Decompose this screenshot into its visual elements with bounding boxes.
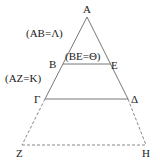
label-z: Z	[16, 147, 23, 159]
annotation-be: (BE=Θ)	[65, 50, 101, 63]
extension-gamma-z	[22, 99, 45, 145]
label-a: A	[83, 3, 91, 15]
label-e: E	[111, 59, 118, 71]
label-delta: Δ	[131, 93, 138, 105]
label-b: B	[49, 58, 56, 70]
annotation-ab: (AB=Λ)	[26, 27, 63, 40]
triangle-diagram: A B E Γ Δ Z H (AB=Λ) (BE=Θ) (AZ=K)	[0, 0, 160, 165]
label-gamma: Γ	[34, 93, 40, 105]
extension-delta-h	[128, 99, 146, 145]
label-h: H	[142, 147, 150, 159]
annotation-az: (AZ=K)	[5, 72, 41, 85]
